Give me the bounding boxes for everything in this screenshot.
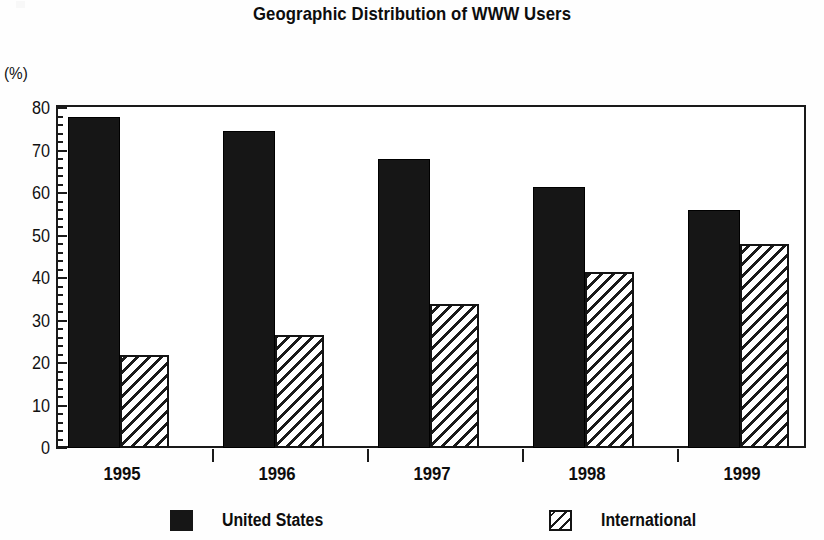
y-axis-tick-labels: 01020304050607080 [0, 108, 50, 448]
x-axis-tick-label: 1996 [241, 463, 311, 485]
y-axis-tick-label: 20 [19, 354, 50, 372]
legend-item-united-states: United States [170, 505, 337, 535]
legend-item-international: International [549, 505, 709, 535]
bar-united-states-1999 [688, 210, 740, 448]
x-axis-ticks [58, 449, 806, 463]
chart-figure: Geographic Distribution of WWW Users (%)… [0, 0, 824, 540]
legend-swatch-solid-icon [170, 510, 193, 531]
legend-label-international: International [601, 510, 696, 531]
bar-international-1995 [120, 355, 169, 449]
y-axis-tick-label: 60 [19, 184, 50, 202]
bar-united-states-1997 [378, 159, 430, 448]
y-axis-tick-label: 40 [19, 269, 50, 287]
x-axis-tick [677, 449, 679, 462]
bar-international-1999 [740, 244, 789, 448]
x-axis-tick [522, 449, 524, 462]
x-axis-tick-label: 1995 [86, 463, 156, 485]
x-axis-tick-labels: 19951996199719981999 [58, 463, 806, 491]
bar-international-1997 [430, 304, 479, 449]
chart-title: Geographic Distribution of WWW Users [49, 3, 774, 25]
bar-united-states-1995 [68, 117, 120, 449]
y-axis-tick-label: 70 [19, 142, 50, 160]
plot-area [58, 108, 806, 448]
y-axis-tick-label: 0 [19, 439, 50, 457]
x-axis-tick [367, 449, 369, 462]
y-axis-tick-label: 10 [19, 397, 50, 415]
bar-united-states-1996 [223, 131, 275, 448]
x-axis-tick-label: 1997 [396, 463, 466, 485]
x-axis-tick-label: 1998 [551, 463, 621, 485]
x-axis-tick [212, 449, 214, 462]
y-axis-tick-label: 30 [19, 312, 50, 330]
y-axis-tick-label: 80 [19, 99, 50, 117]
y-axis-tick-label: 50 [19, 227, 50, 245]
scan-artifact [16, 1, 25, 8]
legend-swatch-hatched-icon [549, 510, 572, 531]
legend-label-united-states: United States [222, 510, 323, 531]
x-axis-tick-label: 1999 [706, 463, 776, 485]
bar-international-1998 [585, 272, 634, 448]
chart-legend: United States International [0, 505, 824, 540]
y-axis-unit-label: (%) [4, 64, 28, 84]
bar-united-states-1998 [533, 187, 585, 448]
bar-international-1996 [275, 335, 324, 448]
